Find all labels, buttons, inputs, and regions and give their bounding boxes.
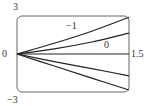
curve-label-minus-one: −1 <box>66 21 77 31</box>
x-min-label: 0 <box>2 49 7 59</box>
y-min-label: −3 <box>7 95 18 105</box>
curve-label-zero: 0 <box>104 40 109 50</box>
x-max-label: 1.5 <box>131 49 144 59</box>
series-line-second <box>17 33 129 54</box>
y-max-label: 3 <box>13 2 18 12</box>
